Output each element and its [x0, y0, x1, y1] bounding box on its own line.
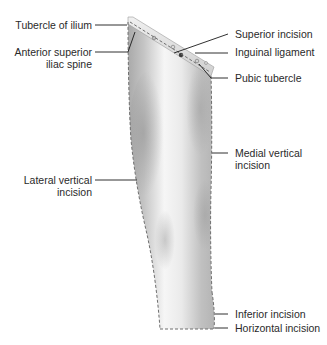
label-inguinal-ligament: Inguinal ligament: [235, 46, 314, 58]
leg-incision-diagram: Tubercle of ilium Anterior superior ilia…: [0, 0, 327, 345]
leader-superior-incision: [174, 34, 228, 53]
label-anterior-superior-iliac-spine: Anterior superior iliac spine: [14, 46, 92, 70]
label-inferior-incision: Inferior incision: [235, 308, 306, 320]
superior-incision-marker: [171, 45, 175, 49]
label-pubic-tubercle: Pubic tubercle: [235, 72, 302, 84]
label-horizontal-incision: Horizontal incision: [235, 322, 320, 334]
label-tubercle-of-ilium: Tubercle of ilium: [15, 19, 92, 31]
label-lateral-vertical-incision: Lateral vertical incision: [24, 174, 92, 198]
label-medial-vertical-incision: Medial vertical incision: [235, 147, 302, 171]
pubic-tubercle-marker: [195, 59, 199, 63]
label-superior-incision: Superior incision: [235, 28, 313, 40]
